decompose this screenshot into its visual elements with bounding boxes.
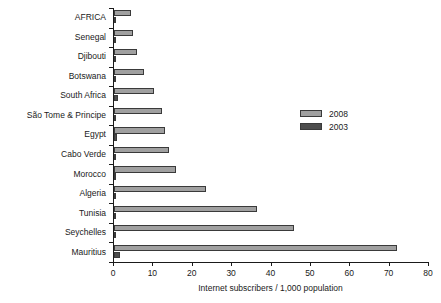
category-label: Algeria: [0, 188, 106, 198]
y-axis-tick: [109, 28, 113, 29]
y-axis-tick: [109, 86, 113, 87]
bar-2008: [114, 10, 131, 16]
legend-label: 2003: [329, 122, 348, 132]
bar-2003: [114, 37, 116, 43]
chart-row: South Africa: [113, 86, 428, 106]
x-axis-tick-label: 30: [216, 268, 246, 278]
bar-2008: [114, 245, 397, 251]
bar-2008: [114, 127, 165, 133]
y-axis-tick: [109, 164, 113, 165]
chart-row: São Tome & Principe: [113, 106, 428, 126]
category-label: AFRICA: [0, 12, 106, 22]
plot-area: AFRICASenegalDjiboutiBotswanaSouth Afric…: [113, 8, 428, 262]
bar-2003: [114, 134, 117, 140]
y-axis-tick: [109, 184, 113, 185]
category-label: Cabo Verde: [0, 149, 106, 159]
bar-2003: [114, 173, 116, 179]
x-axis-tick-label: 80: [413, 268, 441, 278]
category-label: Senegal: [0, 32, 106, 42]
category-label: Djibouti: [0, 51, 106, 61]
bar-2003: [114, 76, 116, 82]
chart-row: Egypt: [113, 125, 428, 145]
bar-2008: [114, 206, 257, 212]
bar-2003: [114, 232, 116, 238]
bar-2008: [114, 147, 169, 153]
chart-row: Seychelles: [113, 223, 428, 243]
x-axis-tick-label: 70: [374, 268, 404, 278]
bar-2003: [114, 252, 120, 258]
legend-swatch: [300, 110, 322, 117]
category-label: Morocco: [0, 169, 106, 179]
chart-row: Morocco: [113, 164, 428, 184]
chart-row: Tunisia: [113, 203, 428, 223]
y-axis-tick: [109, 8, 113, 9]
legend-item: 2008: [300, 108, 348, 119]
category-label: Seychelles: [0, 227, 106, 237]
bar-2003: [114, 213, 116, 219]
x-axis-title: Internet subscribers / 1,000 population: [113, 283, 428, 293]
legend-label: 2008: [329, 109, 348, 119]
x-axis-tick-label: 20: [177, 268, 207, 278]
category-label: Egypt: [0, 129, 106, 139]
chart-row: Senegal: [113, 28, 428, 48]
category-label: Mauritius: [0, 247, 106, 257]
chart-row: AFRICA: [113, 8, 428, 28]
x-axis-tick-label: 10: [137, 268, 167, 278]
legend: 20082003: [300, 108, 348, 134]
chart-row: Botswana: [113, 67, 428, 87]
category-label: South Africa: [0, 90, 106, 100]
bar-2008: [114, 166, 176, 172]
y-axis-tick: [109, 203, 113, 204]
x-axis-tick: [428, 262, 429, 266]
category-label: Tunisia: [0, 208, 106, 218]
chart-row: Algeria: [113, 184, 428, 204]
bar-2003: [114, 154, 116, 160]
bar-2003: [114, 17, 116, 23]
x-axis-tick: [389, 262, 390, 266]
bar-2008: [114, 108, 162, 114]
bar-2003: [114, 193, 116, 199]
bar-2008: [114, 30, 133, 36]
category-label: São Tome & Principe: [0, 110, 106, 120]
legend-swatch: [300, 123, 322, 130]
chart-row: Djibouti: [113, 47, 428, 67]
bar-2008: [114, 88, 154, 94]
bar-2008: [114, 69, 144, 75]
x-axis-tick-label: 0: [98, 268, 128, 278]
bar-2003: [114, 115, 116, 121]
y-axis-tick: [109, 47, 113, 48]
y-axis-tick: [109, 145, 113, 146]
y-axis-tick: [109, 242, 113, 243]
x-axis-tick: [310, 262, 311, 266]
x-axis-tick: [271, 262, 272, 266]
x-axis-tick: [231, 262, 232, 266]
bar-chart: AFRICASenegalDjiboutiBotswanaSouth Afric…: [0, 0, 441, 303]
y-axis-tick: [109, 125, 113, 126]
x-axis-tick: [349, 262, 350, 266]
y-axis-tick: [109, 106, 113, 107]
x-axis-tick-label: 40: [256, 268, 286, 278]
x-axis-tick-label: 50: [295, 268, 325, 278]
y-axis-tick: [109, 67, 113, 68]
x-axis-tick: [192, 262, 193, 266]
x-axis-tick: [152, 262, 153, 266]
bar-2003: [114, 95, 118, 101]
x-axis-tick: [113, 262, 114, 266]
chart-row: Mauritius: [113, 242, 428, 262]
category-label: Botswana: [0, 71, 106, 81]
bar-2008: [114, 186, 206, 192]
chart-row: Cabo Verde: [113, 145, 428, 165]
bar-2003: [114, 56, 116, 62]
x-axis-tick-label: 60: [334, 268, 364, 278]
bar-2008: [114, 225, 294, 231]
legend-item: 2003: [300, 121, 348, 132]
bar-2008: [114, 49, 137, 55]
y-axis-tick: [109, 223, 113, 224]
